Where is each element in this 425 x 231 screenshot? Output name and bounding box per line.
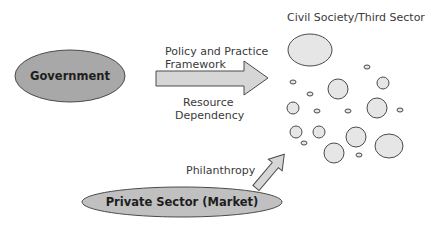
private-sector-label: Private Sector (Market) [82,195,282,209]
bubble [287,102,299,114]
government-label: Government [15,69,125,83]
bubble [364,65,370,69]
bubble [314,109,320,113]
resource-label-line1: Resource [183,96,233,109]
bubble [346,127,366,147]
bubble [367,98,387,118]
bubble [301,141,307,145]
bubble [324,143,344,163]
bubble [377,77,389,89]
civil-society-bubbles [287,34,403,163]
civil-society-title: Civil Society/Third Sector [287,11,425,24]
bubble [356,153,362,157]
bubble [375,134,403,158]
philanthropy-arrow [249,149,291,194]
policy-label-line1: Policy and Practice [165,45,268,58]
bubble [345,109,351,113]
bubble [290,126,302,138]
bubble [313,126,325,138]
bubble [397,108,403,112]
bubble [290,80,296,84]
philanthropy-label: Philanthropy [186,164,255,177]
bubble [328,79,348,99]
resource-label-line2: Dependency [175,109,244,122]
bubble-large-top [288,34,332,66]
policy-label-line2: Framework [165,58,226,71]
bubble [307,92,313,96]
